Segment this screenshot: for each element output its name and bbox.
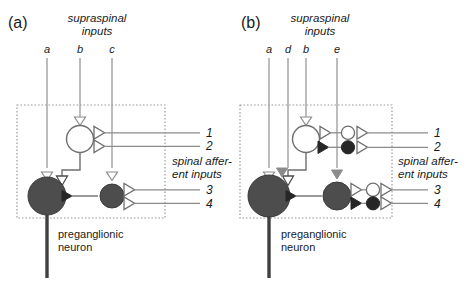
panel-b-afferent-title-line1: spinal affer- (398, 155, 458, 167)
panel-a-interneuron-filled (100, 184, 124, 208)
panel-b-synapse-4-inhibitory (351, 197, 362, 210)
panel-b-supraspinal-title-line2: inputs (305, 25, 336, 37)
panel-a-input-c-label: c (109, 43, 115, 55)
panel-b-synapse-1-excitatory (320, 127, 331, 140)
panel-b-afferent-label-3: 3 (434, 183, 441, 197)
panel-b-afferent-title-line2: ent inputs (398, 168, 448, 180)
panel-b-synapse-2-inhibitory (318, 141, 329, 154)
panel-a-interneuron-open (67, 126, 94, 153)
panel-b-synapse-e-inhibitory (332, 170, 343, 179)
panel-b-supraspinal-title-line1: supraspinal (291, 12, 350, 24)
panel-b: (b) supraspinal inputs a d b e 1 2 (240, 12, 458, 278)
panel-b-small-circle-open-3 (366, 183, 379, 196)
panel-b-synapse-2-terminal (357, 141, 368, 154)
panel-a-synapse-2-excitatory (94, 140, 105, 153)
panel-b-small-circle-filled-4 (366, 197, 379, 210)
panel-a-afferent-title-line2: ent inputs (172, 168, 222, 180)
panel-b-input-e-label: e (334, 43, 340, 55)
panel-a-input-a-label: a (44, 43, 50, 55)
panel-a-synapse-1-excitatory (94, 127, 105, 140)
panel-a-synapse-soma-collateral (62, 191, 72, 202)
panel-b-synapse-4-terminal (381, 197, 392, 210)
panel-b-synapse-3-terminal (381, 184, 392, 197)
panel-b-small-circle-filled-2 (341, 141, 354, 154)
panel-a-preganglionic-soma (28, 177, 66, 215)
panel-a-afferent-label-3: 3 (206, 183, 213, 197)
panel-b-small-circle-open-1 (341, 126, 354, 139)
panel-b-input-b-label: b (303, 43, 309, 55)
panel-b-output-label-line2: neuron (281, 241, 315, 253)
neural-circuit-diagram: (a) supraspinal inputs a b c 1 2 (0, 0, 467, 288)
panel-a-afferent-label-2: 2 (205, 139, 213, 153)
panel-a-supraspinal-title-line2: inputs (82, 25, 113, 37)
panel-b-synapse-1-terminal (357, 127, 368, 140)
panel-a-synapse-b-excitatory (75, 117, 86, 126)
panel-b-afferent-label-4: 4 (434, 197, 441, 211)
panel-a: (a) supraspinal inputs a b c 1 2 (8, 12, 232, 278)
panel-b-afferent-label-1: 1 (434, 126, 441, 140)
figure-canvas: (a) supraspinal inputs a b c 1 2 (0, 0, 467, 288)
panel-b-preganglionic-soma (248, 175, 290, 217)
panel-a-output-label-line1: preganglionic (58, 228, 124, 240)
panel-a-afferent-label-1: 1 (206, 126, 213, 140)
panel-b-synapse-soma-collateral (286, 191, 296, 202)
panel-b-input-a-label: a (266, 43, 272, 55)
panel-b-afferent-label-2: 2 (433, 140, 441, 154)
panel-a-synapse-3-excitatory (124, 184, 135, 197)
panel-a-synapse-4-excitatory (124, 197, 135, 210)
panel-b-output-label-line1: preganglionic (281, 228, 347, 240)
panel-b-input-d-label: d (285, 43, 292, 55)
panel-a-input-b-label: b (77, 43, 83, 55)
panel-a-afferent-label-4: 4 (206, 197, 213, 211)
panel-b-label: (b) (241, 14, 261, 31)
panel-b-interneuron-open (293, 126, 320, 153)
panel-a-afferent-title-line1: spinal affer- (172, 155, 232, 167)
panel-a-synapse-c-excitatory (107, 172, 118, 181)
panel-b-synapse-3-excitatory (351, 184, 362, 197)
panel-a-label: (a) (8, 14, 28, 31)
panel-b-interneuron-filled (323, 182, 351, 210)
panel-a-output-label-line2: neuron (58, 241, 92, 253)
panel-a-supraspinal-title-line1: supraspinal (68, 12, 127, 24)
panel-b-synapse-b-excitatory (301, 117, 312, 126)
